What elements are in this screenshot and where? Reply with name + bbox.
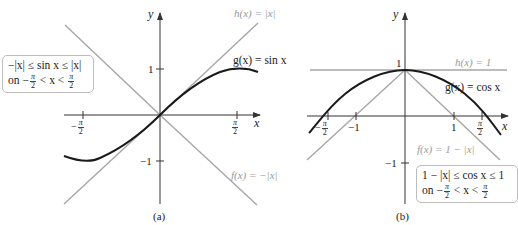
- label-h-one: h(x) = 1: [455, 56, 491, 69]
- label-g-cos-x: g(x) = cos x: [445, 81, 501, 94]
- fraction: π2: [477, 120, 483, 137]
- tick-x-neg-pi-half-b: −π2: [315, 120, 329, 137]
- fraction: π2: [322, 120, 328, 137]
- tick-y-1-a: 1: [148, 63, 154, 75]
- note-prefix: on −: [422, 184, 443, 196]
- label-g-sin-x: g(x) = sin x: [233, 54, 287, 67]
- note-mid: < x <: [37, 74, 67, 86]
- minus-sign: −: [71, 121, 77, 132]
- fraction: π2: [68, 73, 74, 90]
- label-f-one-minus-abs: f(x) = 1 − |x|: [417, 143, 475, 156]
- fraction: π2: [482, 183, 488, 200]
- x-axis-label-a: x: [253, 116, 260, 130]
- curve-f-neg-abs-x-right: [160, 115, 257, 205]
- fraction: π2: [444, 183, 450, 200]
- denominator: 2: [232, 128, 238, 136]
- tick-x-pi-half-b: π2: [476, 120, 484, 137]
- denominator: 2: [482, 192, 488, 200]
- fraction: π2: [232, 119, 238, 136]
- note-mid: < x <: [451, 184, 481, 196]
- tick-y-neg1-b: −1: [385, 157, 397, 169]
- tick-x-1-b: 1: [451, 121, 457, 133]
- denominator: 2: [477, 129, 483, 137]
- denominator: 2: [68, 82, 74, 90]
- tick-y-1-b: 1: [396, 57, 402, 69]
- inequality-note-b: 1 − |x| ≤ cos x ≤ 1 on −π2 < x < π2: [416, 165, 518, 203]
- y-axis-label-a: y: [147, 7, 154, 21]
- caption-b: (b): [396, 210, 409, 223]
- denominator: 2: [78, 128, 84, 136]
- note-line2: on −π2 < x < π2: [422, 183, 512, 200]
- denominator: 2: [322, 129, 328, 137]
- inequality-note-a: −|x| ≤ sin x ≤ |x| on −π2 < x < π2: [2, 55, 94, 93]
- tick-y-neg1-a: −1: [140, 155, 152, 167]
- note-line1: −|x| ≤ sin x ≤ |x|: [8, 58, 88, 73]
- label-h-abs-x: h(x) = |x|: [234, 7, 276, 20]
- fraction: π2: [78, 119, 84, 136]
- note-line2: on −π2 < x < π2: [8, 73, 88, 90]
- note-line1: 1 − |x| ≤ cos x ≤ 1: [422, 168, 512, 183]
- minus-sign: −: [315, 122, 321, 133]
- tick-x-pi-half-a: π2: [231, 119, 239, 136]
- fraction: π2: [30, 73, 36, 90]
- label-f-neg-abs-x: f(x) = −|x|: [231, 169, 278, 182]
- x-axis-label-b: x: [501, 119, 508, 133]
- y-axis-label-b: y: [392, 7, 399, 21]
- tick-x-neg1-b: −1: [348, 121, 360, 133]
- note-prefix: on −: [8, 74, 29, 86]
- tick-x-neg-pi-half-a: −π2: [71, 119, 85, 136]
- denominator: 2: [444, 192, 450, 200]
- caption-a: (a): [153, 210, 166, 223]
- denominator: 2: [30, 82, 36, 90]
